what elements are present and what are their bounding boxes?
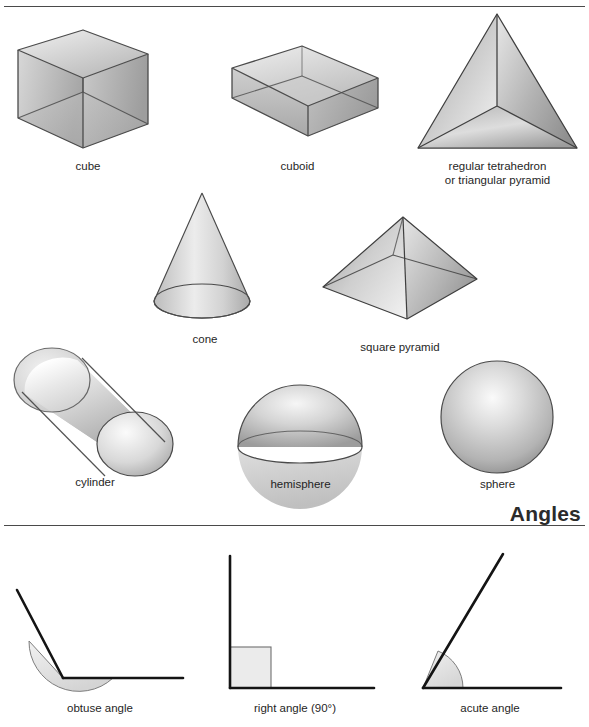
shape-label-square-pyramid: square pyramid (315, 341, 485, 355)
cube-icon (8, 20, 168, 160)
cone-icon (140, 185, 270, 330)
shape-cell-right-angle: right angle (90°) (200, 552, 390, 720)
angles-divider-rule (4, 525, 585, 526)
shape-label-obtuse-angle: obtuse angle (5, 702, 195, 716)
cylinder-icon (5, 348, 185, 473)
shape-cell-sphere: sphere (430, 358, 565, 493)
square-pyramid-icon (315, 215, 485, 335)
shape-cell-square-pyramid: square pyramid (315, 215, 485, 350)
tetrahedron-icon (410, 8, 585, 160)
hemisphere-icon (228, 375, 373, 475)
shape-cell-tetrahedron: regular tetrahedron or triangular pyrami… (410, 8, 585, 180)
shape-label-cube: cube (8, 160, 168, 174)
acute-angle-icon (395, 548, 585, 700)
shape-cell-hemisphere: hemisphere (228, 375, 373, 493)
cuboid-icon (210, 20, 385, 160)
obtuse-angle-icon (5, 560, 195, 700)
shape-label-sphere: sphere (430, 478, 565, 492)
shape-label-cylinder: cylinder (5, 476, 185, 490)
geometry-reference-page: cube (0, 0, 589, 727)
right-angle-icon (200, 552, 390, 700)
angles-section-heading: Angles (510, 502, 581, 526)
shape-cell-cube: cube (8, 20, 168, 170)
shape-cell-cuboid: cuboid (210, 20, 385, 170)
shape-cell-acute-angle: acute angle (395, 548, 585, 720)
shape-label-hemisphere: hemisphere (228, 478, 373, 492)
shape-cell-cone: cone (140, 185, 270, 350)
shape-cell-obtuse-angle: obtuse angle (5, 560, 195, 720)
top-divider-rule (4, 6, 585, 7)
shape-cell-cylinder: cylinder (5, 348, 185, 493)
shape-label-acute-angle: acute angle (395, 702, 585, 716)
sphere-icon (430, 358, 565, 476)
shape-label-cone: cone (140, 333, 270, 347)
shape-label-tetrahedron: regular tetrahedron or triangular pyrami… (410, 160, 585, 187)
shape-label-cuboid: cuboid (210, 160, 385, 174)
shape-label-right-angle: right angle (90°) (200, 702, 390, 716)
